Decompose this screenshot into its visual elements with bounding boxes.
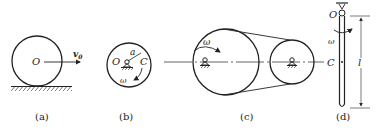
distance-label-a: a: [130, 47, 135, 57]
caption-d: (d): [336, 111, 350, 122]
belt-upper: [223, 29, 290, 40]
rotation-arrow: [194, 47, 220, 52]
rotation-arrow: [334, 29, 352, 33]
pivot-label-o: O: [329, 9, 337, 20]
caption-c: (c): [240, 111, 254, 122]
caption-b: (b): [119, 111, 133, 122]
mass-center-label-c: C: [140, 56, 148, 67]
hinge: [339, 4, 345, 9]
belt-lower: [223, 84, 290, 95]
omega-label: ω: [328, 37, 335, 46]
omega-label: ω: [120, 76, 127, 85]
ground-hatch: [11, 87, 72, 91]
pivot-support-icon: [121, 60, 133, 70]
figure-d: O ω C l (d): [320, 3, 370, 122]
omega-label: ω: [203, 37, 211, 47]
pivot-pin: [339, 10, 345, 16]
figure-a: O v0 (a): [11, 36, 83, 122]
figure-b: O a C ω (b): [107, 43, 151, 122]
center-label-o: O: [32, 56, 40, 67]
caption-a: (a): [35, 111, 49, 122]
mass-center-dot: [341, 61, 343, 63]
velocity-label: v0: [73, 49, 83, 60]
pivot-support-icon: [200, 58, 210, 68]
mechanics-figures: O v0 (a) O a C ω (b): [0, 0, 380, 135]
figure-c: ω (c): [164, 29, 320, 122]
rotation-arrow: [134, 68, 142, 80]
pivot-label-o: O: [112, 56, 120, 67]
mass-center-label-c: C: [327, 57, 335, 68]
pivot-support-icon: [287, 58, 297, 68]
length-label-l: l: [358, 57, 361, 68]
